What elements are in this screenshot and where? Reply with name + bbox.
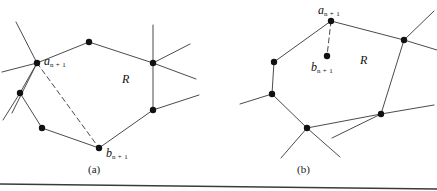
- panel-b-polygon-edge-4: [272, 62, 274, 94]
- panel-b-caption: (b): [297, 163, 310, 175]
- panel-a-polygon-edge-5: [20, 93, 42, 128]
- panel-b-polygon-edge-3: [272, 94, 307, 128]
- panel-b-stub-edge-6: [240, 94, 272, 104]
- panel-a-label-b-n-plus-1: bn + 1: [106, 146, 128, 161]
- panel-a-stub-edge-7: [3, 93, 20, 120]
- panel-b-stub-edge-3: [332, 114, 381, 138]
- panel-b-label-a-n-plus-1: an + 1: [318, 3, 340, 18]
- panel-a-polygon-edge-3: [99, 110, 153, 148]
- bottom-rule: [0, 184, 437, 189]
- panel-a-vertex-top: [86, 39, 92, 45]
- panel-a-stub-edge-3: [153, 44, 190, 63]
- panel-a-vertex-right-lower: [150, 107, 156, 113]
- panel-b-vertex-right-lower: [378, 111, 384, 117]
- panel-b-vertex-left-upper: [271, 59, 277, 65]
- panel-a-label-a-sub: n + 1: [50, 61, 66, 69]
- panel-a-polygon-edge-1: [89, 42, 153, 63]
- panel-b-region-label: R: [360, 53, 367, 68]
- panel-a-stub-edge-0: [16, 22, 37, 63]
- panel-a-region-label: R: [122, 72, 129, 87]
- panel-b-stub-edge-5: [281, 128, 307, 158]
- panel-b-polygon-edge-1: [381, 40, 404, 114]
- panel-b-label-a-sub: n + 1: [324, 10, 340, 18]
- figure-canvas: [0, 0, 437, 191]
- panel-a-label-b-sub: n + 1: [112, 153, 128, 161]
- panel-a-polygon-edge-6: [20, 63, 37, 93]
- panel-b-stub-edge-4: [307, 128, 340, 157]
- panel-a-dashed-edge-0: [37, 63, 99, 148]
- panel-a-polygon-edge-4: [42, 128, 99, 148]
- panel-a-vertex-b-n-plus-1: [96, 145, 102, 151]
- panel-b-polygon-edge-5: [274, 21, 331, 62]
- panel-b-polygon-edge-0: [331, 21, 404, 40]
- panel-b-vertex-left-lower: [269, 91, 275, 97]
- panel-b-vertex-bottom: [304, 125, 310, 131]
- panel-b-vertex-a-n-plus-1: [328, 18, 334, 24]
- panel-a-caption: (a): [88, 163, 100, 175]
- panel-b-polygon-edge-2: [307, 114, 381, 128]
- panel-a-stub-edge-6: [153, 95, 199, 110]
- panel-a-vertex-lower-left-inner: [39, 125, 45, 131]
- panel-b-dashed-edge-0: [327, 21, 331, 56]
- panel-a-vertex-left-mid: [17, 90, 23, 96]
- panel-a-stub-edge-4: [153, 63, 196, 79]
- panel-b-stub-edge-2: [381, 105, 434, 114]
- panel-b-vertex-b-n-plus-1: [324, 53, 330, 59]
- panel-a-vertex-right-upper: [150, 60, 156, 66]
- panel-a-vertex-a-n-plus-1: [34, 60, 40, 66]
- panel-b-stub-edge-1: [404, 40, 437, 50]
- panel-b-label-b-n-plus-1: bn + 1: [311, 60, 333, 75]
- panel-b-label-b-sub: n + 1: [317, 67, 333, 75]
- panel-b-stub-edge-0: [404, 11, 434, 40]
- panel-b-vertex-right-upper: [401, 37, 407, 43]
- panel-a-label-a-n-plus-1: an + 1: [44, 54, 66, 69]
- panel-a-stub-edge-1: [2, 63, 37, 72]
